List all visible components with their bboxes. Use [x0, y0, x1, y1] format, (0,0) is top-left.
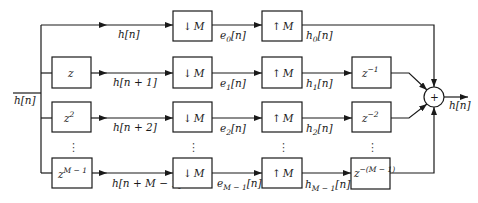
signal-label: h[n + 2] — [113, 121, 158, 133]
downsampler-label: ↓M — [183, 112, 205, 124]
ellipsis-icon: ⋮ — [278, 141, 289, 154]
polyphase-diagram: h[n] h[n] ↓M e0[n] ↑M h0[n] z h[n + 1] ↓… — [0, 0, 478, 203]
summer-node: + — [424, 87, 444, 107]
e-label: e1[n] — [220, 77, 247, 92]
signal-label: h[n] — [118, 28, 141, 40]
plus-icon: + — [430, 91, 439, 103]
upsampler-label: ↑M — [272, 112, 294, 124]
e-label: e0[n] — [220, 29, 247, 44]
h-label: hM − 1[n] — [305, 178, 351, 193]
ellipsis-icon: ⋮ — [188, 141, 199, 154]
e-label: eM − 1[n] — [217, 177, 263, 192]
down-arrow-icon: ↓ — [183, 67, 192, 79]
up-arrow-icon: ↑ — [272, 112, 281, 124]
ellipsis-icon: ⋮ — [367, 141, 378, 154]
downsampler-box — [173, 158, 212, 188]
upsampler-label: ↑M — [272, 167, 294, 179]
input-signal: h[n] — [13, 93, 41, 106]
advance-label: z — [67, 67, 74, 79]
upsampler-label: ↑M — [272, 67, 294, 79]
ellipsis-icon: ⋮ — [68, 141, 79, 154]
branch-row-2: z2 h[n + 2] ↓M e2[n] ↑M h2[n] z−2 — [41, 102, 427, 137]
downsampler-box — [173, 57, 212, 88]
up-arrow-icon: ↑ — [272, 67, 281, 79]
output-label: h[n] — [449, 99, 472, 111]
h-label: h1[n] — [306, 77, 333, 92]
h-label: h2[n] — [306, 122, 333, 137]
output-signal: h[n] — [444, 97, 472, 111]
e-label: e2[n] — [220, 122, 247, 137]
downsampler-label: ↓M — [183, 67, 205, 79]
input-label: h[n] — [14, 94, 37, 106]
up-arrow-icon: ↑ — [272, 167, 281, 179]
downsampler-box — [173, 102, 212, 132]
downsampler-box — [173, 11, 212, 41]
down-arrow-icon: ↓ — [183, 112, 192, 124]
ellipsis-row: ⋮ ⋮ ⋮ ⋮ — [68, 141, 378, 154]
up-arrow-icon: ↑ — [272, 20, 281, 32]
upsampler-label: ↑M — [272, 20, 294, 32]
signal-label: h[n + 1] — [113, 76, 158, 88]
signal-label: h[n + M − 1] — [112, 177, 183, 189]
branch-row-1: z h[n + 1] ↓M e1[n] ↑M h1[n] z−1 — [41, 57, 427, 92]
down-arrow-icon: ↓ — [183, 167, 192, 179]
h-label: h0[n] — [306, 29, 333, 44]
downsampler-label: ↓M — [183, 167, 205, 179]
down-arrow-icon: ↓ — [183, 20, 192, 32]
downsampler-label: ↓M — [183, 20, 205, 32]
